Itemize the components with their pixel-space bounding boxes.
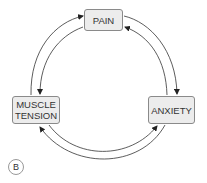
node-muscle-tension-label-line2: TENSION [15,110,57,121]
arrow-anxiety-to-muscle [40,125,165,159]
panel-label-badge: B [8,159,24,175]
node-pain-label: PAIN [93,15,114,26]
node-muscle-tension: MUSCLE TENSION [12,96,60,124]
panel-label-text: B [13,162,19,172]
arrow-pain-to-muscle [40,27,83,94]
node-anxiety-label: ANXIETY [151,105,192,116]
node-muscle-tension-label-line1: MUSCLE [16,99,56,110]
arrow-pain-to-anxiety [124,16,177,94]
node-anxiety: ANXIETY [148,96,195,124]
node-pain: PAIN [84,9,123,31]
arrow-muscle-to-anxiety [49,125,157,151]
arrow-muscle-to-pain [31,16,83,95]
arrow-anxiety-to-pain [125,27,167,95]
